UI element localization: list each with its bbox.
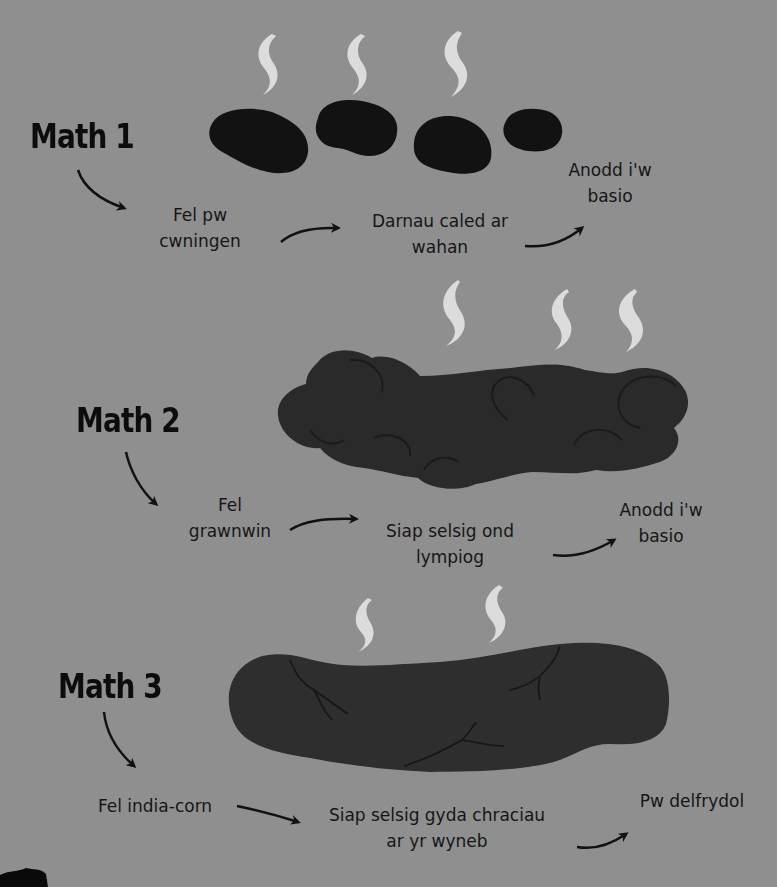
stool-types-diagram: Math 1 Fel pw cwningen Darnau caled ar w… bbox=[0, 0, 777, 887]
arrow-icon bbox=[237, 806, 298, 822]
type-1-shape-line-1: Darnau caled ar bbox=[360, 208, 520, 234]
type-2-shape: Siap selsig ond lympiog bbox=[370, 518, 530, 570]
steam-icon bbox=[258, 31, 467, 97]
arrow-icon bbox=[577, 834, 626, 848]
type-2-result: Anodd i'w basio bbox=[606, 497, 716, 549]
type-1-description: Fel pw cwningen bbox=[140, 202, 260, 254]
type-2-description-line-1: Fel bbox=[170, 492, 290, 518]
type-1-result: Anodd i'w basio bbox=[560, 157, 660, 209]
corner-shape bbox=[0, 868, 48, 887]
type-1-result-line-2: basio bbox=[560, 183, 660, 209]
arrow-icon bbox=[553, 540, 614, 556]
type-1-description-line-1: Fel pw bbox=[140, 202, 260, 228]
type-2-shape-line-2: lympiog bbox=[370, 544, 530, 570]
type-1-shape: Darnau caled ar wahan bbox=[360, 208, 520, 260]
type-2-result-line-2: basio bbox=[606, 523, 716, 549]
arrow-icon bbox=[290, 519, 356, 530]
type-2-shape-line-1: Siap selsig ond bbox=[370, 518, 530, 544]
arrow-icon bbox=[525, 228, 582, 246]
type-3-result-line-1: Pw delfrydol bbox=[622, 788, 762, 814]
type-3-description-line-1: Fel india-corn bbox=[80, 793, 230, 819]
type-3-heading: Math 3 bbox=[58, 666, 162, 706]
lumpy-sausage-icon bbox=[278, 350, 688, 489]
arrow-icon bbox=[104, 712, 134, 766]
type-1-heading: Math 1 bbox=[30, 116, 134, 156]
cracked-sausage-icon bbox=[229, 643, 669, 772]
arrow-icon bbox=[281, 228, 338, 242]
type-3-result: Pw delfrydol bbox=[622, 788, 762, 814]
type-3-description: Fel india-corn bbox=[80, 793, 230, 819]
type-3-shape-line-2: ar yr wyneb bbox=[312, 828, 562, 854]
type-3-shape-line-1: Siap selsig gyda chraciau bbox=[312, 802, 562, 828]
type-2-result-line-1: Anodd i'w bbox=[606, 497, 716, 523]
arrow-icon bbox=[126, 452, 156, 504]
steam-icon bbox=[443, 280, 643, 352]
type-2-description-line-2: grawnwin bbox=[170, 518, 290, 544]
type-1-result-line-1: Anodd i'w bbox=[560, 157, 660, 183]
type-3-shape: Siap selsig gyda chraciau ar yr wyneb bbox=[312, 802, 562, 854]
type-1-description-line-2: cwningen bbox=[140, 228, 260, 254]
type-2-description: Fel grawnwin bbox=[170, 492, 290, 544]
separate-hard-lumps-icon bbox=[209, 100, 562, 174]
steam-icon bbox=[356, 585, 506, 652]
arrow-icon bbox=[78, 170, 124, 208]
type-2-heading: Math 2 bbox=[76, 400, 180, 440]
type-1-shape-line-2: wahan bbox=[360, 234, 520, 260]
